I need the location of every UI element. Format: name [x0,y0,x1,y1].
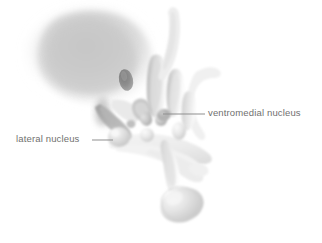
lateral-nucleus-bulb [108,127,130,147]
label-ventromedial-nucleus: ventromedial nucleus [208,107,301,118]
hypothalamus-illustration [0,0,322,243]
pituitary-bulb [156,182,208,228]
anatomical-figure: ventromedial nucleus lateral nucleus [0,0,322,243]
label-lateral-nucleus: lateral nucleus [16,133,80,144]
